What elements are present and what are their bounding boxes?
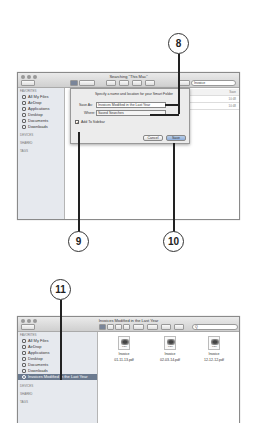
tags-button[interactable] <box>145 80 155 86</box>
tags-button[interactable] <box>174 324 184 330</box>
smart-folder-icon <box>22 375 26 379</box>
share-button[interactable] <box>132 80 142 86</box>
save-as-label: Save As: <box>79 103 93 107</box>
file-name-line2: 01-11-13.pdf <box>110 358 138 362</box>
save-search-button[interactable]: Save <box>229 90 236 94</box>
save-search-bar: Save <box>189 89 239 96</box>
sidebar-header-tags: TAGS <box>18 148 64 154</box>
file-name-line2: 12-12-12.pdf <box>200 358 228 362</box>
sidebar-header-shared: SHARED <box>18 140 64 146</box>
add-to-sidebar-label: Add To Sidebar <box>81 120 105 124</box>
sidebar-header-devices: DEVICES <box>18 132 64 138</box>
view-columns-button[interactable] <box>115 324 122 330</box>
callout-8-leader-where <box>150 114 179 116</box>
search-input[interactable]: Q <box>192 324 238 330</box>
back-forward-button[interactable] <box>21 324 35 330</box>
file-item[interactable]: PDF Invoice 01-11-13.pdf <box>110 336 138 362</box>
arrange-button[interactable] <box>133 324 144 330</box>
airdrop-icon <box>22 101 26 105</box>
search-scope-button[interactable] <box>178 80 190 86</box>
sidebar: FAVORITES All My Files AirDrop Applicati… <box>18 332 98 423</box>
downloads-icon <box>22 369 26 373</box>
file-name-line1: Invoice <box>110 352 138 356</box>
pdf-file-icon: PDF <box>118 336 130 350</box>
desktop-icon <box>22 357 26 361</box>
sidebar: FAVORITES All My Files AirDrop Applicati… <box>18 88 65 219</box>
file-name-line1: Invoice <box>156 352 184 356</box>
action-button[interactable] <box>119 80 129 86</box>
share-button[interactable] <box>161 324 171 330</box>
action-button[interactable] <box>147 324 158 330</box>
documents-icon <box>22 119 26 123</box>
view-list-button[interactable] <box>79 80 95 86</box>
callout-11: 11 <box>50 279 71 300</box>
sheet-prompt: Specify a name and location for your Sma… <box>95 92 173 96</box>
save-smart-folder-sheet: Specify a name and location for your Sma… <box>70 88 190 144</box>
window-title: Invoices Modified in the Last Year <box>18 318 239 323</box>
where-label: Where: <box>84 111 95 115</box>
downloads-icon <box>22 125 26 129</box>
window-title: Searching "This Mac" <box>18 74 239 79</box>
airdrop-icon <box>22 345 26 349</box>
sidebar-item-smart-folder[interactable]: Invoices Modified in the Last Year <box>18 374 97 380</box>
desktop-icon <box>22 113 26 117</box>
callout-10: 10 <box>163 231 184 252</box>
save-as-field[interactable]: Invoices Modified in the Last Year <box>96 102 166 108</box>
result-row: 10:48 <box>189 103 239 110</box>
pdf-file-icon: PDF <box>208 336 220 350</box>
file-item[interactable]: PDF Invoice 02-03-14.pdf <box>156 336 184 362</box>
file-name-line1: Invoice <box>200 352 228 356</box>
file-name-line2: 02-03-14.pdf <box>156 358 184 362</box>
arrange-button[interactable] <box>106 80 116 86</box>
view-icon-button[interactable] <box>70 80 78 86</box>
file-item[interactable]: PDF Invoice 12-12-12.pdf <box>200 336 228 362</box>
applications-icon <box>22 351 26 355</box>
sidebar-header-tags: TAGS <box>18 399 97 405</box>
search-input[interactable]: Invoice <box>191 80 236 86</box>
cancel-button[interactable]: Cancel <box>143 135 163 141</box>
pdf-file-icon: PDF <box>164 336 176 350</box>
callout-8-leader-saveas <box>165 104 179 106</box>
callout-9: 9 <box>68 231 89 252</box>
titlebar: Searching "This Mac" Invoice <box>18 73 239 88</box>
view-icon-button[interactable] <box>99 324 106 330</box>
sidebar-header-shared: SHARED <box>18 391 97 397</box>
callout-8: 8 <box>168 33 189 54</box>
finder-window-smart-folder: Invoices Modified in the Last Year Q FAV… <box>17 316 240 423</box>
callout-10-leader <box>173 143 175 232</box>
view-coverflow-button[interactable] <box>123 324 130 330</box>
result-row: 10:48 <box>189 96 239 103</box>
applications-icon <box>22 107 26 111</box>
view-list-button[interactable] <box>107 324 114 330</box>
save-button[interactable]: Save <box>166 135 186 141</box>
titlebar: Invoices Modified in the Last Year Q <box>18 317 239 332</box>
callout-11-leader <box>60 300 62 380</box>
all-files-icon <box>22 95 26 99</box>
back-forward-button[interactable] <box>21 80 35 86</box>
add-to-sidebar-checkbox[interactable]: ✓ <box>75 120 79 124</box>
callout-9-leader <box>78 132 80 232</box>
all-files-icon <box>22 339 26 343</box>
sidebar-item-downloads[interactable]: Downloads <box>18 124 64 130</box>
finder-window-search: Searching "This Mac" Invoice FAVORITES A… <box>17 72 240 220</box>
documents-icon <box>22 363 26 367</box>
sidebar-header-devices: DEVICES <box>18 383 97 389</box>
